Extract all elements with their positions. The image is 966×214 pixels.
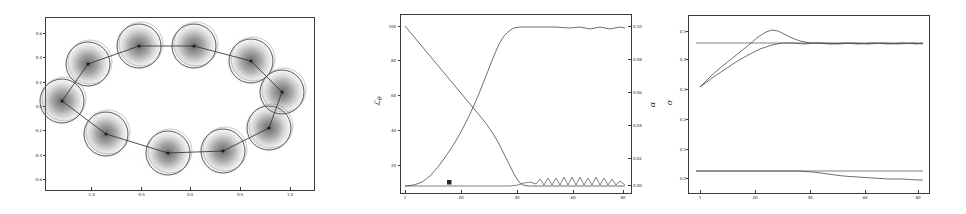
xtick-label-p2: 20 (458, 195, 463, 200)
loss-alpha-plot-svg (400, 14, 630, 192)
ytick-label-p2-right: 0.10 (633, 24, 642, 29)
axis-label-alpha: α (648, 95, 657, 115)
ytick-label-p2-right: 0.08 (633, 57, 642, 62)
ytick-label-p2-right: 0.06 (633, 90, 642, 95)
curve-loss-increasing (405, 27, 625, 186)
panel-loss-alpha: ℒθ α 100 80 60 40 20 0.10 0.08 0.06 0.04… (330, 0, 660, 214)
ytick-label-p3: 0.2 (668, 117, 686, 122)
xtick-label-p2: 80 (620, 195, 625, 200)
axis-label-sigma: σ (665, 92, 674, 114)
ytick-label-p3: 0.4 (668, 57, 686, 62)
ytick-label-p1: -0.6 (20, 177, 42, 182)
ytick-label-p2-left: 80 (380, 58, 396, 63)
ytick-label-p2-left: 100 (380, 24, 396, 29)
ytick-label-p3: 0.5 (668, 29, 686, 34)
ytick-label-p2-right: 0.02 (633, 156, 642, 161)
xtick-label-p1: -1.0 (87, 192, 95, 197)
ytick-label-p1: 0.6 (22, 31, 42, 36)
panel-sigma: σ 0.5 0.4 0.3 0.2 0.1 0.0 1 20 40 60 80 (660, 0, 966, 214)
ring-plot-svg (45, 17, 313, 189)
ytick-label-p3: 0.0 (668, 176, 686, 181)
axis-label-loss: ℒθ (373, 86, 384, 116)
curve-loss-decreasing (405, 26, 625, 186)
ytick-label-p3: 0.3 (668, 87, 686, 92)
curve-sigma-overshoot (700, 30, 923, 87)
xtick-label-p3: 80 (915, 195, 920, 200)
ytick-label-p2-right: 0.00 (633, 183, 642, 188)
xtick-label-p1: 0.5 (237, 192, 243, 197)
xtick-label-p1: 1.0 (287, 192, 293, 197)
legend-square-marker (447, 180, 452, 185)
xtick-label-p2: 60 (570, 195, 575, 200)
curve-sigma-monotone (700, 43, 923, 87)
xtick-label-p1: 0.0 (187, 192, 193, 197)
xtick-label-p1: -0.5 (137, 192, 145, 197)
figure-root: 0.6 0.4 0.2 0.0 -0.2 -0.4 -0.6 -1.0 -0.5… (0, 0, 966, 214)
ytick-label-p2-right: 0.04 (633, 123, 642, 128)
ytick-label-p2-left: 60 (380, 93, 396, 98)
xtick-label-p2: 40 (514, 195, 519, 200)
panel-ring-scatter: 0.6 0.4 0.2 0.0 -0.2 -0.4 -0.6 -1.0 -0.5… (0, 0, 330, 214)
ytick-label-p1: -0.4 (20, 153, 42, 158)
ytick-label-p3: 0.1 (668, 147, 686, 152)
ytick-label-p2-left: 20 (380, 163, 396, 168)
ytick-label-p1: 0.4 (22, 55, 42, 60)
xtick-label-p3: 1 (699, 195, 702, 200)
xtick-label-p2: 1 (404, 195, 407, 200)
xtick-label-p3: 60 (862, 195, 867, 200)
ytick-label-p1: 0.2 (22, 80, 42, 85)
xtick-label-p3: 20 (752, 195, 757, 200)
xtick-label-p3: 40 (807, 195, 812, 200)
curve-sigma-slow-decay (696, 171, 923, 180)
ytick-label-p1: -0.2 (20, 128, 42, 133)
sigma-plot-svg (688, 15, 928, 192)
curve-alpha (405, 177, 625, 186)
ytick-label-p2-left: 40 (380, 128, 396, 133)
